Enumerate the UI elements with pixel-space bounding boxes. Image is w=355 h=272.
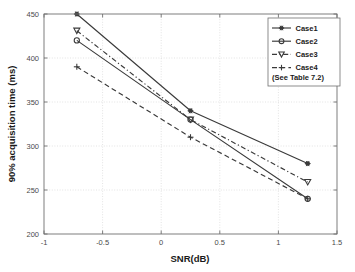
x-axis-title: SNR(dB) [170, 253, 209, 264]
y-tick-label: 450 [26, 10, 39, 19]
legend-label: Case3 [296, 50, 318, 59]
legend-label: Case2 [296, 37, 318, 46]
legend-label: Case4 [296, 63, 319, 72]
legend-note: (See Table 7.2) [272, 73, 324, 82]
y-axis-title: 90% acquisition time (ms) [6, 66, 17, 183]
x-tick-label: 1 [276, 238, 280, 247]
line-chart: -1-0.500.511.5 200250300350400450 SNR(dB… [0, 0, 355, 272]
y-tick-label: 250 [26, 186, 39, 195]
x-tick-label: -0.5 [96, 238, 109, 247]
x-tick-label: 0.5 [215, 238, 225, 247]
y-tick-label: 350 [26, 98, 39, 107]
y-tick-label: 300 [26, 142, 39, 151]
y-tick-label: 400 [26, 54, 39, 63]
y-tick-label: 200 [26, 230, 39, 239]
x-tick-label: -1 [41, 238, 48, 247]
x-tick-label: 0 [159, 238, 163, 247]
chart-figure: -1-0.500.511.5 200250300350400450 SNR(dB… [0, 0, 355, 272]
x-tick-label: 1.5 [332, 238, 342, 247]
legend-label: Case1 [296, 24, 318, 33]
